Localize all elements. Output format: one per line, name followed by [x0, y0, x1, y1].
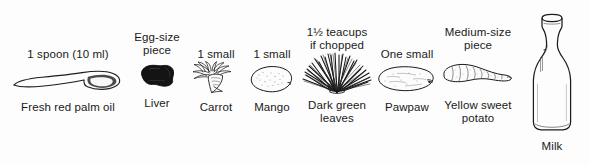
food-item-name: Dark green leaves [296, 99, 378, 125]
food-portion-figure: 1 spoon (10 ml) Fresh red palm oil Egg-s… [0, 0, 590, 165]
carrot-icon [186, 61, 246, 97]
food-item-name: Pawpaw [373, 101, 441, 114]
food-item-name: Mango [243, 101, 301, 114]
food-item-name: Fresh red palm oil [6, 101, 130, 114]
food-item-milk: Milk [518, 10, 586, 153]
sweet-potato-icon [436, 52, 520, 95]
food-item-liver: Egg-size piece Liver [126, 31, 188, 110]
food-item-quantity: 1½ teacups if chopped [296, 26, 378, 52]
food-item-dark-green-leaves: 1½ teacups if chopped [296, 26, 378, 125]
food-item-quantity: One small [373, 33, 441, 61]
food-item-mango: 1 small Mango [243, 33, 301, 114]
milk-bottle-icon [518, 10, 586, 138]
food-item-quantity: 1 small [243, 33, 301, 61]
food-item-name: Liver [126, 97, 188, 110]
food-item-quantity: Medium-size piece [436, 26, 520, 52]
food-item-palm-oil: 1 spoon (10 ml) Fresh red palm oil [6, 33, 130, 114]
mango-icon [243, 61, 301, 97]
food-item-name: Yellow sweet potato [436, 99, 520, 125]
food-item-quantity: 1 small [186, 33, 246, 61]
food-item-quantity: Egg-size piece [126, 31, 188, 57]
food-item-name: Milk [518, 140, 586, 153]
spoon-icon [6, 61, 130, 97]
dark-green-leaves-icon [296, 52, 378, 95]
food-item-quantity: 1 spoon (10 ml) [6, 33, 130, 61]
food-item-yellow-sweet-potato: Medium-size piece [436, 26, 520, 125]
food-item-carrot: 1 small [186, 33, 246, 114]
food-item-name: Carrot [186, 101, 246, 114]
liver-icon [126, 57, 188, 93]
pawpaw-icon [373, 61, 441, 97]
food-item-pawpaw: One small [373, 33, 441, 114]
